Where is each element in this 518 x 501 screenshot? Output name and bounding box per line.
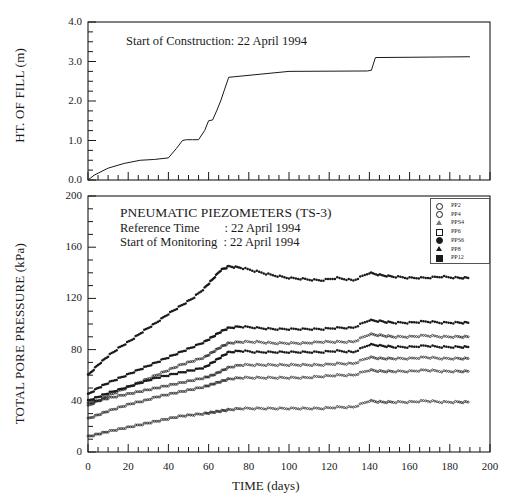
- data-point: [313, 327, 316, 330]
- data-point: [395, 276, 398, 279]
- data-point: [185, 381, 187, 383]
- data-point: [299, 365, 301, 367]
- data-point: [281, 364, 283, 366]
- data-point: [242, 377, 244, 379]
- data-point: [467, 346, 470, 349]
- data-point: [434, 369, 436, 371]
- data-point: [427, 345, 430, 348]
- data-point: [429, 370, 431, 372]
- data-point: [256, 407, 258, 409]
- data-point: [159, 387, 161, 389]
- data-point: [327, 363, 329, 365]
- data-point: [124, 394, 126, 396]
- data-point: [336, 406, 338, 408]
- series-pps4: [87, 333, 469, 407]
- data-point: [366, 401, 368, 403]
- data-point: [406, 371, 408, 373]
- data-point: [244, 376, 246, 378]
- data-point: [167, 370, 169, 372]
- data-point: [283, 407, 285, 409]
- data-point: [265, 365, 267, 367]
- data-point: [432, 334, 434, 336]
- data-point: [299, 352, 302, 355]
- data-point: [269, 327, 272, 330]
- data-point: [311, 352, 314, 355]
- data-point: [345, 407, 347, 409]
- data-point: [253, 351, 256, 354]
- data-point: [133, 384, 136, 387]
- data-point: [422, 356, 424, 358]
- legend-label: PPS4: [451, 218, 464, 227]
- data-point: [167, 385, 169, 387]
- data-point: [107, 431, 109, 433]
- y-tick-label: 160: [40, 240, 82, 252]
- data-point: [202, 358, 204, 360]
- data-point: [424, 320, 427, 323]
- data-point: [327, 375, 329, 377]
- data-point: [124, 343, 127, 346]
- data-point: [281, 342, 283, 344]
- data-point: [443, 345, 446, 348]
- data-point: [176, 353, 179, 356]
- data-point: [159, 373, 161, 375]
- data-point: [306, 364, 308, 366]
- data-point: [299, 377, 301, 379]
- data-point: [193, 360, 195, 362]
- data-point: [355, 406, 357, 408]
- data-point: [193, 389, 195, 391]
- data-point: [350, 326, 353, 329]
- data-point: [288, 408, 290, 410]
- data-point: [427, 335, 429, 337]
- data-point: [176, 417, 178, 419]
- data-point: [355, 374, 357, 376]
- data-point: [322, 328, 325, 331]
- x-tick-label: 120: [309, 460, 349, 472]
- data-point: [256, 376, 258, 378]
- data-point: [359, 323, 362, 326]
- data-point: [308, 351, 311, 354]
- data-point: [397, 345, 400, 348]
- data-point: [258, 376, 260, 378]
- data-point: [425, 369, 427, 371]
- data-point: [429, 277, 432, 280]
- data-point: [167, 418, 169, 420]
- data-point: [364, 274, 367, 277]
- data-point: [448, 358, 450, 360]
- legend-label: PP2: [451, 201, 461, 210]
- data-point: [450, 346, 453, 349]
- data-point: [315, 328, 318, 331]
- data-point: [432, 356, 434, 358]
- data-point: [193, 296, 196, 299]
- data-point: [272, 377, 274, 379]
- data-point: [281, 275, 284, 278]
- data-point: [409, 335, 411, 337]
- data-point: [406, 346, 409, 349]
- data-point: [357, 339, 359, 341]
- data-point: [242, 326, 245, 329]
- data-point: [272, 407, 274, 409]
- data-point: [322, 364, 324, 366]
- data-point: [270, 342, 272, 344]
- data-point: [254, 408, 256, 410]
- data-point: [308, 279, 311, 282]
- data-point: [447, 321, 450, 324]
- data-point: [345, 351, 348, 354]
- data-point: [408, 321, 411, 324]
- data-point: [415, 346, 418, 349]
- data-point: [441, 402, 443, 404]
- data-point: [244, 267, 247, 270]
- data-point: [299, 343, 301, 345]
- data-point: [341, 350, 344, 353]
- data-point: [325, 363, 327, 365]
- ht-of-fill-axis-label: HT. OF FILL (m): [12, 48, 28, 143]
- data-point: [244, 363, 246, 365]
- data-point: [345, 342, 347, 344]
- data-point: [267, 272, 270, 275]
- data-point: [249, 377, 251, 379]
- data-point: [448, 370, 450, 372]
- data-point: [247, 341, 249, 343]
- data-point: [322, 351, 325, 354]
- data-point: [332, 341, 334, 343]
- data-point: [418, 358, 420, 360]
- data-point: [336, 362, 338, 364]
